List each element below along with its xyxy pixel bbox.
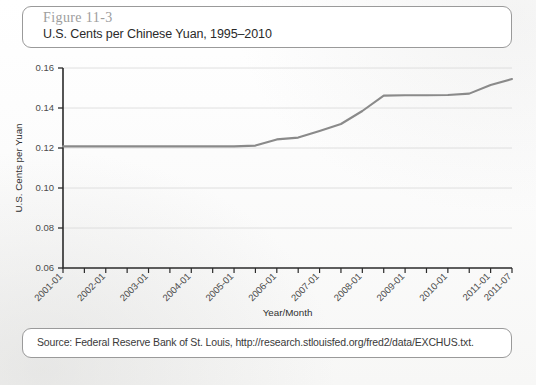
data-series-line [63, 79, 512, 146]
x-tick-label: 2010-01 [417, 271, 449, 303]
y-tick-label: 0.12 [36, 142, 55, 153]
x-tick-label: 2003-01 [117, 271, 149, 303]
x-tick-label: 2008-01 [331, 271, 363, 303]
x-tick-label: 2001-01 [32, 271, 64, 303]
source-note: Source: Federal Reserve Bank of St. Loui… [37, 336, 474, 348]
y-tick-label: 0.08 [36, 222, 55, 233]
line-chart: 0.060.080.100.120.140.16 2001-012002-012… [0, 52, 536, 320]
grid-lines [63, 68, 512, 228]
figure-source-box: Source: Federal Reserve Bank of St. Loui… [22, 328, 512, 358]
y-axis-tick-labels: 0.060.080.100.120.140.16 [36, 62, 55, 273]
x-axis-tick-labels: 2001-012002-012003-012004-012005-012006-… [32, 271, 513, 303]
x-axis-title: Year/Month [263, 307, 313, 318]
x-tick-label: 2007-01 [289, 271, 321, 303]
y-tick-label: 0.10 [36, 182, 55, 193]
x-tick-label: 2002-01 [75, 271, 107, 303]
x-tick-label: 2005-01 [203, 271, 235, 303]
axis-lines [63, 68, 512, 268]
y-tick-label: 0.16 [36, 62, 55, 73]
figure-header-box: Figure 11-3 U.S. Cents per Chinese Yuan,… [22, 6, 512, 48]
x-tick-label: 2004-01 [160, 271, 192, 303]
y-tick-label: 0.14 [36, 102, 55, 113]
chart-area: 0.060.080.100.120.140.16 2001-012002-012… [0, 52, 536, 320]
y-tick-label: 0.06 [36, 262, 55, 273]
figure-page: Figure 11-3 U.S. Cents per Chinese Yuan,… [0, 0, 536, 385]
figure-number: Figure 11-3 [43, 10, 113, 26]
x-tick-label: 2006-01 [246, 271, 278, 303]
figure-title: U.S. Cents per Chinese Yuan, 1995–2010 [43, 27, 272, 41]
x-tick-label: 2009-01 [374, 271, 406, 303]
y-axis-title: U.S. Cents per Yuan [13, 123, 24, 212]
